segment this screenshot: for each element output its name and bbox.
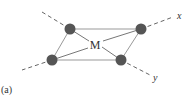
axis-x-label: x (176, 10, 182, 21)
metal-center-label: M (90, 38, 101, 52)
ligand-atom (47, 55, 58, 66)
molecule-diagram: M x y (a) (0, 0, 189, 95)
ligand-atom (136, 24, 147, 35)
ligand-atom (116, 55, 127, 66)
ligand-atom (65, 24, 76, 35)
axis-y-label: y (152, 72, 158, 83)
panel-label: (a) (1, 84, 12, 95)
bond-line (103, 29, 141, 41)
